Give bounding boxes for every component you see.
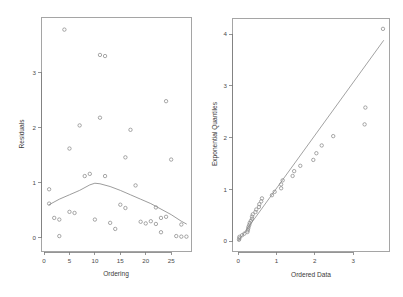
x-tick-label: 3 [351, 257, 355, 264]
data-point [185, 235, 188, 238]
data-point [332, 134, 335, 137]
qq-x-axis-title: Ordered Data [291, 271, 331, 278]
x-tick-label: 2 [313, 257, 317, 264]
data-point [103, 174, 106, 177]
residual-x-axis-title: Ordering [103, 270, 129, 278]
data-point [58, 218, 61, 221]
y-tick-label: 2 [33, 124, 37, 131]
x-tick-label: 15 [117, 257, 124, 264]
data-point [53, 216, 56, 219]
data-point [129, 128, 132, 131]
residual-y-axis-title: Residuals [18, 119, 25, 149]
data-point [103, 54, 106, 57]
y-tick-label: 3 [224, 82, 228, 89]
data-point [98, 116, 101, 119]
qq-y-axis-title: Exponential Quantiles [211, 101, 219, 166]
residual-y-axis-ticks: 0123 [33, 69, 42, 241]
residual-plot-panel: 0510152025 0123 Ordering Residuals [0, 0, 202, 297]
data-point [114, 227, 117, 230]
data-point [139, 220, 142, 223]
data-point [47, 188, 50, 191]
qq-plot-svg: 0123 01234 Ordered Data Exponential Quan… [201, 0, 403, 297]
x-tick-label: 0 [237, 257, 241, 264]
data-point [279, 183, 282, 186]
qq-y-axis-ticks: 01234 [224, 30, 233, 244]
data-point [68, 210, 71, 213]
data-point [175, 234, 178, 237]
residual-plot-box [42, 18, 192, 252]
data-point [320, 144, 323, 147]
data-point [98, 53, 101, 56]
data-point [83, 174, 86, 177]
data-point [169, 158, 172, 161]
data-point [124, 156, 127, 159]
data-point [381, 27, 384, 30]
data-point [315, 152, 318, 155]
data-point [154, 222, 157, 225]
data-point [159, 231, 162, 234]
data-point [144, 222, 147, 225]
data-point [88, 172, 91, 175]
y-tick-label: 3 [33, 69, 37, 76]
data-point [164, 99, 167, 102]
data-point [68, 147, 71, 150]
x-tick-label: 0 [42, 257, 46, 264]
data-point [164, 215, 167, 218]
data-point [292, 169, 295, 172]
data-point [312, 158, 315, 161]
data-point [180, 235, 183, 238]
qq-reference-line [238, 40, 384, 241]
data-point [159, 216, 162, 219]
data-point [291, 174, 294, 177]
data-point [149, 220, 152, 223]
y-tick-label: 0 [33, 234, 37, 241]
residual-x-axis-ticks: 0510152025 [42, 252, 175, 264]
data-point [93, 218, 96, 221]
y-tick-label: 2 [224, 134, 228, 141]
data-point [180, 223, 183, 226]
data-point [73, 211, 76, 214]
data-point [108, 221, 111, 224]
data-point [78, 124, 81, 127]
qq-x-axis-ticks: 0123 [237, 252, 356, 264]
data-point [63, 28, 66, 31]
figure-container: 0510152025 0123 Ordering Residuals 0123 … [0, 0, 403, 297]
lowess-smoother-curve [49, 183, 186, 224]
qq-data-points [237, 27, 384, 241]
x-tick-label: 1 [275, 257, 279, 264]
x-tick-label: 10 [91, 257, 98, 264]
data-point [119, 203, 122, 206]
data-point [124, 206, 127, 209]
data-point [58, 234, 61, 237]
qq-plot-panel: 0123 01234 Ordered Data Exponential Quan… [201, 0, 403, 297]
data-point [364, 106, 367, 109]
residual-data-points [47, 28, 188, 238]
y-tick-label: 4 [224, 30, 228, 37]
data-point [134, 184, 137, 187]
data-point [363, 123, 366, 126]
data-point [279, 187, 282, 190]
y-tick-label: 1 [33, 179, 37, 186]
x-tick-label: 5 [68, 257, 72, 264]
residual-plot-svg: 0510152025 0123 Ordering Residuals [0, 0, 202, 297]
y-tick-label: 0 [224, 237, 228, 244]
data-point [299, 164, 302, 167]
x-tick-label: 20 [142, 257, 149, 264]
x-tick-label: 25 [168, 257, 175, 264]
y-tick-label: 1 [224, 186, 228, 193]
